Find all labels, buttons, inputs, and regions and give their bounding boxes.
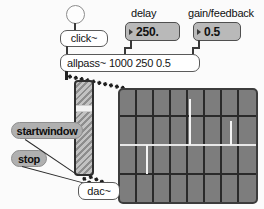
comment-gain-feedback: gain/feedback <box>188 7 254 19</box>
grid-hline <box>120 115 256 117</box>
object-allpass[interactable]: allpass~ 1000 250 0.5 <box>60 54 200 72</box>
scope-spike-up-second <box>230 121 232 145</box>
scope-zero-line <box>120 144 256 146</box>
number-box-delay[interactable]: 250. <box>125 22 180 41</box>
atom-triangle-icon <box>129 29 133 35</box>
scope-spike-up-main <box>189 99 191 145</box>
grid-vline <box>186 90 188 202</box>
comment-delay: delay <box>131 7 156 19</box>
cord-click-to-allpass <box>66 46 68 54</box>
grid-vline <box>152 90 154 202</box>
scope-spike-down <box>146 145 148 174</box>
grid-vline <box>169 90 171 202</box>
signal-scope-graph[interactable] <box>118 88 258 204</box>
slider-knob[interactable] <box>76 105 92 112</box>
message-startwindow[interactable]: startwindow <box>11 122 83 139</box>
grid-vline <box>135 90 137 202</box>
pd-patch-canvas: click~ delay 250. gain/feedback 0.5 allp… <box>0 0 264 209</box>
grid-hline <box>120 173 256 175</box>
number-box-delay-value: 250. <box>136 25 159 39</box>
grid-vline <box>220 90 222 202</box>
grid-vline <box>203 90 205 202</box>
message-stop[interactable]: stop <box>11 150 47 167</box>
object-dac[interactable]: dac~ <box>78 182 120 200</box>
atom-triangle-icon <box>197 29 201 35</box>
object-click[interactable]: click~ <box>60 30 108 47</box>
bang-object[interactable] <box>66 5 85 24</box>
number-box-gain[interactable]: 0.5 <box>193 22 241 41</box>
grid-vline <box>237 90 239 202</box>
number-box-gain-value: 0.5 <box>204 25 220 39</box>
